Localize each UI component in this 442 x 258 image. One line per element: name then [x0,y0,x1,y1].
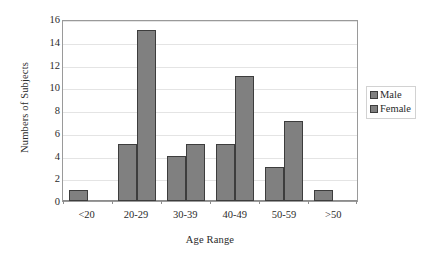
legend-label: Male [380,90,402,101]
x-axis-tick-labels: <2020-2930-3940-4950-59>50 [62,209,358,220]
x-axis-tick-label: 40-49 [210,209,259,220]
y-axis-tick-label: 4 [34,151,60,162]
bar-group [308,21,357,201]
bar-female [235,76,254,201]
x-axis-tick-mark [161,201,162,204]
y-axis-tick-label: 14 [34,38,60,49]
bar-group [210,21,259,201]
y-axis-title: Numbers of Subjects [19,28,30,188]
bar-male [314,190,333,201]
y-axis-tick-label: 16 [34,15,60,26]
bar-male [69,190,88,201]
y-axis-tick-label: 6 [34,129,60,140]
legend-item-female: Female [370,104,411,115]
bar-group [63,21,112,201]
bar-male [265,167,284,201]
legend-swatch-icon [370,91,378,99]
y-axis-tick-label: 12 [34,60,60,71]
x-axis-tick-label: <20 [62,209,111,220]
bar-groups [63,21,357,201]
x-axis-tick-label: 20-29 [111,209,160,220]
bar-female [137,30,156,201]
bar-female [284,121,303,201]
x-axis-tick-mark [210,201,211,204]
bar-male [216,144,235,201]
x-axis-tick-mark [63,201,64,204]
x-axis-tick-label: 30-39 [161,209,210,220]
bar-group [259,21,308,201]
y-axis-tick-label: 0 [34,197,60,208]
plot-area [62,20,358,202]
x-axis-tick-mark [259,201,260,204]
x-axis-tick-mark [308,201,309,204]
x-axis-tick-label: 50-59 [259,209,308,220]
y-axis-tick-label: 10 [34,83,60,94]
x-axis-tick-label: >50 [309,209,358,220]
legend: MaleFemale [366,86,416,119]
legend-item-male: Male [370,90,411,101]
bar-chart-figure: Numbers of Subjects 0246810121416 <2020-… [0,0,442,258]
bar-male [118,144,137,201]
legend-swatch-icon [370,105,378,113]
x-axis-tick-mark [112,201,113,204]
bar-male [167,156,186,202]
y-axis-tick-label: 2 [34,174,60,185]
y-axis-tick-labels: 0246810121416 [34,20,60,202]
bar-group [112,21,161,201]
legend-label: Female [380,104,411,115]
x-axis-title: Age Range [62,234,358,245]
bar-female [186,144,205,201]
bar-group [161,21,210,201]
x-axis-tick-mark [356,201,357,204]
y-axis-tick-label: 8 [34,106,60,117]
